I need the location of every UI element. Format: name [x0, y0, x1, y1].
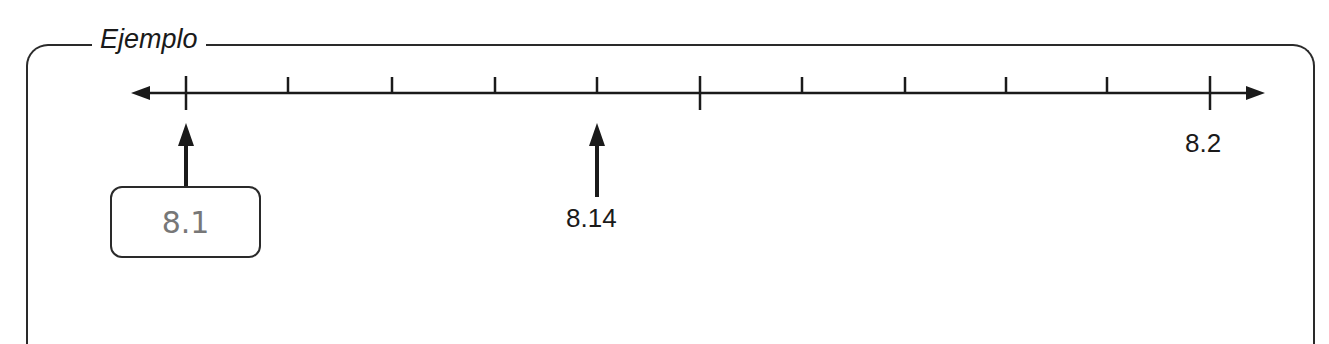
point-label-8-2: 8.2: [1185, 128, 1221, 158]
left-arrowhead-icon: [131, 86, 150, 100]
answer-value: 8.1: [162, 205, 210, 240]
answer-box[interactable]: 8.1: [110, 186, 261, 258]
arrow-up-icon: [589, 123, 605, 146]
minor-ticks: [288, 77, 1107, 93]
arrow-up-icon: [178, 123, 194, 146]
right-arrowhead-icon: [1246, 86, 1265, 100]
point-label-8-14: 8.14: [566, 203, 617, 233]
